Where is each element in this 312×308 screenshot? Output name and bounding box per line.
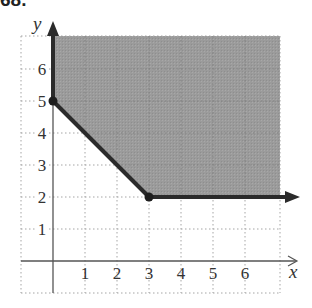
y-tick: 2 — [38, 188, 47, 207]
y-tick: 4 — [38, 124, 47, 143]
x-tick: 3 — [145, 264, 154, 283]
y-tick: 6 — [38, 60, 47, 79]
right-arrowhead-icon — [285, 191, 300, 203]
y-tick-labels: 1 2 3 4 5 6 — [35, 60, 48, 239]
x-tick: 4 — [177, 264, 186, 283]
feasible-region-chart: y x 1 2 3 4 5 6 1 2 3 4 5 6 — [0, 0, 312, 308]
x-tick: 5 — [209, 264, 218, 283]
x-tick: 2 — [113, 264, 122, 283]
x-tick-labels: 1 2 3 4 5 6 — [81, 264, 250, 283]
y-tick: 3 — [38, 156, 47, 175]
y-tick: 1 — [38, 220, 47, 239]
up-arrowhead-icon — [47, 21, 59, 36]
feasible-region — [53, 36, 280, 197]
x-tick: 1 — [81, 264, 90, 283]
x-tick: 6 — [241, 264, 250, 283]
vertex-3-2 — [145, 193, 154, 202]
x-axis-label: x — [288, 261, 298, 282]
vertex-0-5 — [49, 97, 58, 106]
y-tick: 5 — [38, 92, 47, 111]
y-axis-label: y — [31, 13, 42, 34]
